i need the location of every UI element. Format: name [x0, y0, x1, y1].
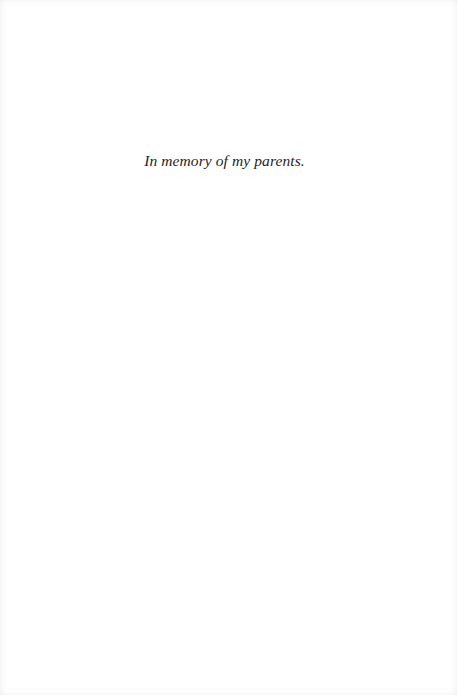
dedication-text: In memory of my parents. — [0, 152, 449, 170]
book-page: In memory of my parents. — [0, 0, 457, 695]
